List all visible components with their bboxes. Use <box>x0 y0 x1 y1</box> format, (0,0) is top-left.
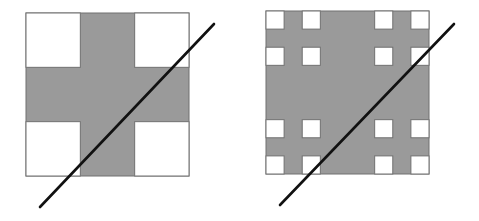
corner-hole <box>411 120 429 138</box>
corner-hole <box>26 122 80 176</box>
corner-hole <box>375 11 393 29</box>
corner-hole <box>266 11 284 29</box>
corner-hole <box>266 120 284 138</box>
corner-hole <box>135 122 189 176</box>
corner-hole <box>266 47 284 65</box>
corner-hole <box>266 156 284 174</box>
corner-hole <box>302 11 320 29</box>
corner-hole <box>375 156 393 174</box>
fractal-diagram <box>0 0 479 221</box>
corner-hole <box>411 11 429 29</box>
corner-hole <box>375 120 393 138</box>
corner-hole <box>26 13 80 67</box>
stage-2-panel <box>266 11 454 205</box>
corner-hole <box>411 156 429 174</box>
stage-1-panel <box>26 13 214 207</box>
corner-hole <box>375 47 393 65</box>
corner-hole <box>302 47 320 65</box>
corner-hole <box>302 120 320 138</box>
fractal-square <box>266 11 429 174</box>
corner-hole <box>411 47 429 65</box>
